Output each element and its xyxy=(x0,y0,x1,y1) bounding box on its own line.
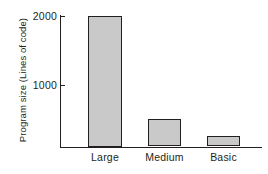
bar-chart-figure: Program size (Lines of code) 1000 2000 L… xyxy=(0,0,268,174)
plot-area xyxy=(0,0,268,174)
bar-large xyxy=(88,16,122,147)
bar-medium xyxy=(148,119,181,146)
bar-basic xyxy=(207,136,240,146)
x-tick-label-basic: Basic xyxy=(187,150,260,164)
